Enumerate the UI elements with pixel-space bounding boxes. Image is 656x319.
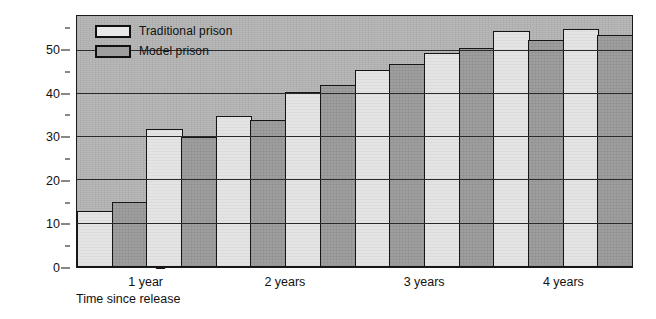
legend-item-model: Model prison	[95, 42, 232, 60]
y-tick-major-40	[61, 93, 70, 94]
legend-item-traditional: Traditional prison	[95, 22, 232, 40]
y-tick-minor-45	[65, 71, 70, 72]
y-axis: Number of men re-convicted 01020304050	[0, 0, 76, 319]
bar-8-model	[320, 85, 356, 267]
bar-15-trad	[563, 29, 599, 267]
y-tick-major-50	[61, 49, 70, 50]
bar-14-model	[528, 40, 564, 267]
y-tick-label-50: 50	[46, 43, 60, 57]
legend-label-model: Model prison	[139, 44, 209, 58]
bar-4-model	[181, 137, 217, 267]
x-tick-label-1: 2 years	[264, 275, 305, 289]
legend-swatch-traditional-icon	[95, 25, 131, 38]
bar-1-trad	[77, 211, 113, 267]
y-tick-label-10: 10	[46, 217, 60, 231]
bar-6-model	[250, 120, 286, 267]
gridline-40	[77, 93, 632, 94]
plot-area: Traditional prison Model prison	[76, 15, 633, 268]
bar-2-model	[112, 202, 148, 267]
bar-3-trad	[146, 129, 182, 267]
x-axis-title: Time since release	[76, 292, 180, 306]
bar-chart: Number of men re-convicted 01020304050 T…	[0, 0, 656, 319]
x-tick-label-2: 3 years	[404, 275, 445, 289]
y-tick-label-0: 0	[53, 261, 60, 275]
y-tick-minor-25	[65, 158, 70, 159]
gridline-30	[77, 136, 632, 137]
y-tick-minor-35	[65, 115, 70, 116]
y-tick-major-30	[61, 137, 70, 138]
bar-16-model	[597, 35, 633, 267]
bar-12-model	[459, 48, 495, 267]
y-tick-major-10	[61, 224, 70, 225]
bar-10-model	[389, 64, 425, 267]
y-tick-minor-5	[65, 246, 70, 247]
legend-label-traditional: Traditional prison	[139, 24, 232, 38]
y-tick-minor-15	[65, 202, 70, 203]
gridline-20	[77, 179, 632, 180]
y-tick-minor-55	[65, 28, 70, 29]
y-tick-major-20	[61, 180, 70, 181]
x-tick-label-0: 1 year	[128, 275, 163, 289]
y-tick-major-0	[61, 268, 70, 269]
bar-13-trad	[493, 31, 529, 267]
x-tick-label-3: 4 years	[543, 275, 584, 289]
bar-5-trad	[216, 116, 252, 267]
y-tick-label-20: 20	[46, 174, 60, 188]
legend-swatch-model-icon	[95, 45, 131, 58]
bar-11-trad	[424, 53, 460, 267]
y-tick-label-40: 40	[46, 87, 60, 101]
y-tick-label-30: 30	[46, 130, 60, 144]
legend: Traditional prison Model prison	[95, 22, 232, 62]
gridline-10	[77, 223, 632, 224]
bar-9-trad	[355, 70, 391, 267]
